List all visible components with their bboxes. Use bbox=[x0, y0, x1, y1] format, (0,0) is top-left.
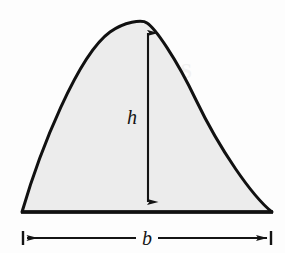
figure-container: SECTORS METHODS IN 2DOC h b bbox=[0, 0, 285, 253]
height-label: h bbox=[127, 106, 137, 128]
base-label: b bbox=[142, 227, 152, 249]
parabolic-segment-figure: SECTORS METHODS IN 2DOC h b bbox=[0, 0, 285, 253]
